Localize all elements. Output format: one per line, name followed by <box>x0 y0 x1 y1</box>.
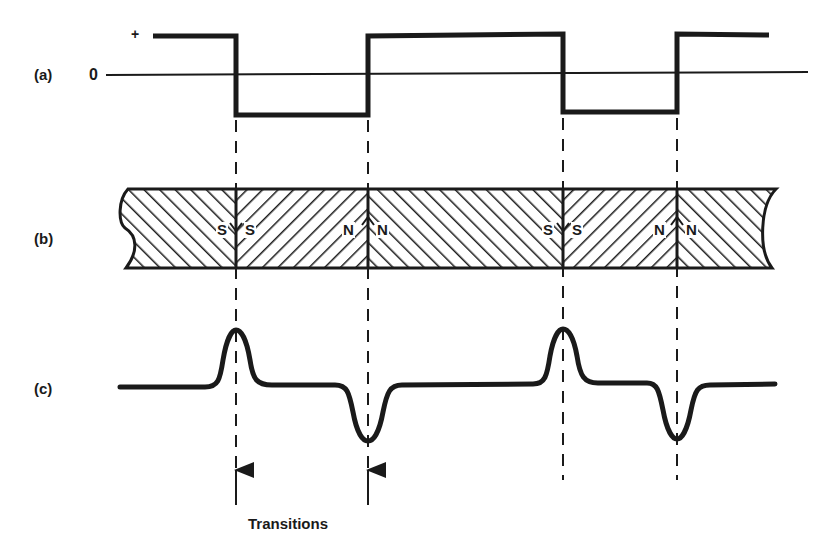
pole-label: S <box>542 222 554 238</box>
label-zero: 0 <box>89 66 98 84</box>
label-plus: + <box>131 26 139 42</box>
pole-label: S <box>244 222 256 238</box>
pole-label: N <box>685 222 698 238</box>
pole-label: S <box>571 222 583 238</box>
zero-axis <box>106 72 808 75</box>
label-c: (c) <box>34 380 52 397</box>
pole-label: N <box>342 222 355 238</box>
label-a: (a) <box>34 66 52 83</box>
pole-label: N <box>376 222 389 238</box>
transitions-label: Transitions <box>248 515 328 532</box>
pole-label: N <box>653 222 666 238</box>
pole-label: S <box>216 222 228 238</box>
transition-guides <box>236 118 677 500</box>
diagram-canvas <box>0 0 829 555</box>
readback-pulses <box>120 329 775 441</box>
label-b: (b) <box>34 230 53 247</box>
